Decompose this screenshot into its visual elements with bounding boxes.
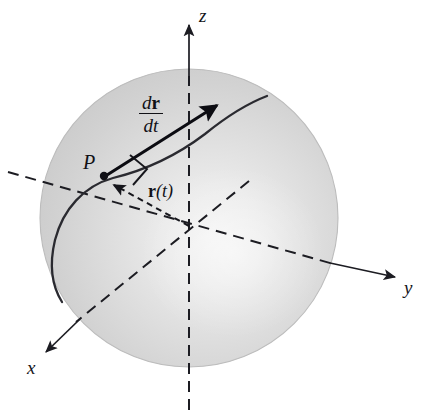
figure-canvas	[0, 0, 431, 410]
point-p-dot	[100, 172, 108, 180]
tangent-label-d-num: d	[142, 92, 152, 113]
tangent-label-t: t	[153, 115, 158, 136]
position-vector-label: r(t)	[148, 182, 173, 200]
y-axis-label: y	[404, 278, 412, 297]
tangent-vector-label: dr dt	[139, 92, 163, 136]
y-axis-arrow	[330, 263, 395, 277]
tangent-label-numerator: dr	[139, 92, 163, 114]
tangent-label-r: r	[152, 92, 160, 113]
x-axis-label: x	[27, 358, 35, 377]
tangent-label-d-den: d	[144, 115, 154, 136]
x-axis-arrow	[46, 319, 80, 352]
vector-calculus-figure: z y x P dr dt r(t)	[0, 0, 431, 410]
position-label-paren-close: )	[167, 181, 173, 201]
point-p-label: P	[83, 152, 95, 172]
tangent-label-denominator: dt	[139, 114, 163, 136]
position-label-r: r	[148, 181, 156, 201]
z-axis-label: z	[199, 6, 206, 25]
